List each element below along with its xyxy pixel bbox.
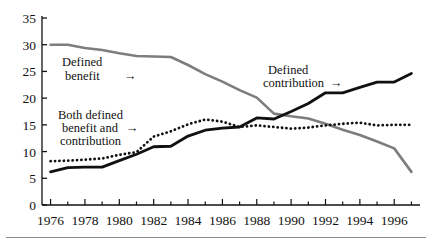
y-tick-label: 30 xyxy=(23,38,37,53)
y-tick-label: 0 xyxy=(29,198,36,213)
x-tick-label: 1988 xyxy=(243,213,270,228)
bottom-divider xyxy=(6,237,426,238)
y-tick-label: 35 xyxy=(23,11,37,26)
annotation-defined-contribution-arrow: → xyxy=(330,76,343,90)
y-tick-label: 20 xyxy=(23,91,37,106)
annotation-defined-contribution-line1: Defined xyxy=(268,63,309,77)
y-tick-label: 10 xyxy=(23,145,37,160)
x-tick-label: 1976 xyxy=(37,213,64,228)
x-tick-label: 1996 xyxy=(381,213,408,228)
annotation-defined-benefit-arrow: → xyxy=(124,69,137,83)
annotation-both-line3: contribution xyxy=(60,134,122,148)
y-tick-label: 25 xyxy=(23,64,37,79)
x-tick-label: 1994 xyxy=(346,213,373,228)
annotation-defined-benefit-line1: Defined xyxy=(62,55,103,69)
x-tick-label: 1986 xyxy=(209,213,236,228)
x-tick-label: 1992 xyxy=(312,213,339,228)
annotation-both-line2: benefit and xyxy=(62,121,119,135)
annotation-both-line1: Both defined xyxy=(58,108,124,122)
annotation-defined-contribution-line2: contribution xyxy=(263,76,325,90)
annotation-both-arrow: → xyxy=(126,121,139,135)
chart-figure: 0510152025303519761978198019821984198619… xyxy=(0,0,432,248)
line-chart: 0510152025303519761978198019821984198619… xyxy=(0,0,432,248)
x-tick-label: 1982 xyxy=(140,213,167,228)
x-tick-label: 1990 xyxy=(278,213,305,228)
x-tick-label: 1978 xyxy=(71,213,98,228)
annotation-defined-benefit-line2: benefit xyxy=(65,69,100,83)
x-tick-label: 1984 xyxy=(175,213,202,228)
x-tick-label: 1980 xyxy=(106,213,133,228)
y-tick-label: 5 xyxy=(29,171,36,186)
y-tick-label: 15 xyxy=(23,118,37,133)
